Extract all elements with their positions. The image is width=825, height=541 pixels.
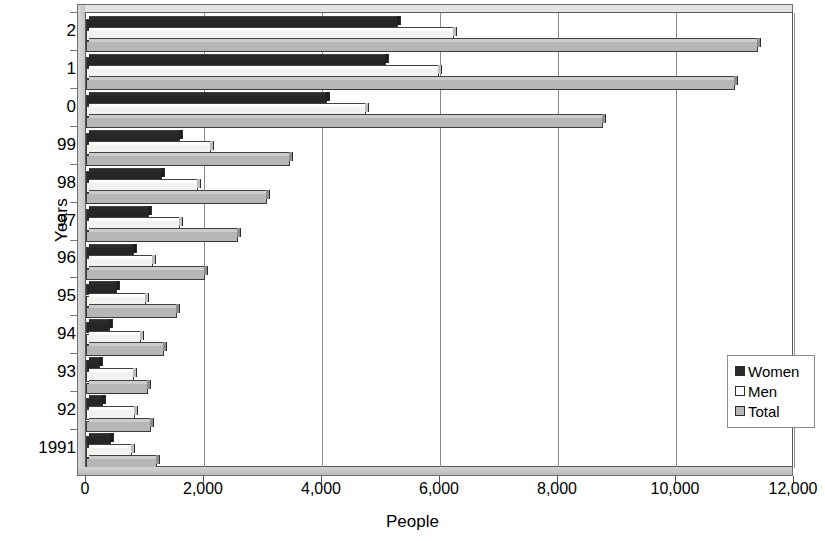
bar-total-0 — [86, 117, 603, 128]
bar-top-face — [89, 455, 158, 459]
bar-top-face — [89, 130, 181, 134]
bar-chart: Years People 19919293949596979899012 02,… — [0, 0, 825, 541]
bar-top-face — [89, 228, 239, 232]
bar-side-face — [116, 281, 120, 290]
bar-side-face — [385, 54, 389, 63]
bar-side-face — [176, 304, 180, 313]
bar-side-face — [133, 368, 137, 377]
y-tick-mark — [70, 164, 77, 165]
y-tick-mark — [70, 50, 77, 51]
y-tick-mark — [70, 12, 77, 13]
bar-total-97 — [86, 231, 238, 242]
x-tick-label: 6,000 — [419, 480, 459, 498]
chart-legend: Women Men Total — [727, 355, 815, 428]
bar-top-face — [89, 217, 181, 221]
bar-top-face — [89, 266, 206, 270]
bar-side-face — [150, 418, 154, 427]
plot-floor — [77, 467, 793, 476]
bar-total-98 — [86, 193, 267, 204]
bar-total-92 — [86, 421, 151, 432]
bar-total-2 — [86, 41, 758, 52]
bar-top-face — [89, 38, 759, 42]
x-axis-title: People — [0, 512, 825, 532]
legend-item-women: Women — [735, 361, 808, 381]
y-tick-label: 1991 — [16, 439, 76, 456]
y-tick-mark — [70, 202, 77, 203]
bar-top-face — [89, 65, 440, 69]
legend-label-men: Men — [748, 383, 777, 400]
legend-swatch-total-icon — [735, 406, 745, 416]
y-tick-mark — [70, 240, 77, 241]
x-tick-label: 8,000 — [537, 480, 577, 498]
bar-side-face — [179, 217, 183, 226]
legend-item-total: Total — [735, 401, 808, 421]
bar-top-face — [89, 342, 165, 346]
bar-total-95 — [86, 307, 177, 318]
bar-side-face — [397, 16, 401, 25]
bar-side-face — [133, 244, 137, 253]
x-tick-label: 10,000 — [651, 480, 700, 498]
bar-top-face — [89, 168, 163, 172]
y-tick-label: 93 — [16, 363, 76, 380]
bar-top-face — [89, 206, 150, 210]
y-tick-label: 99 — [16, 136, 76, 153]
bar-side-face — [163, 342, 167, 351]
bar-total-99 — [86, 155, 290, 166]
y-tick-label: 96 — [16, 249, 76, 266]
bar-side-face — [152, 255, 156, 264]
bar-side-face — [326, 92, 330, 101]
bar-top-face — [89, 433, 112, 437]
x-tick-label: 2,000 — [183, 480, 223, 498]
y-axis-tick-labels: 19919293949596979899012 — [0, 0, 76, 541]
bar-side-face — [147, 380, 151, 389]
bar-top-face — [89, 54, 387, 58]
bar-top-face — [89, 190, 268, 194]
bar-side-face — [148, 206, 152, 215]
bar-side-face — [237, 228, 241, 237]
bar-top-face — [89, 103, 367, 107]
bar-side-face — [757, 38, 761, 47]
bar-side-face — [99, 357, 103, 366]
y-tick-label: 95 — [16, 287, 76, 304]
bar-top-face — [89, 406, 136, 410]
bar-total-93 — [86, 383, 148, 394]
bar-side-face — [365, 103, 369, 112]
y-tick-mark — [70, 391, 77, 392]
bar-side-face — [110, 433, 114, 442]
bar-side-face — [134, 406, 138, 415]
y-tick-label: 98 — [16, 174, 76, 191]
bar-top-face — [89, 380, 149, 384]
y-tick-mark — [70, 429, 77, 430]
bar-side-face — [197, 179, 201, 188]
bar-side-face — [109, 319, 113, 328]
y-tick-label: 1 — [16, 60, 76, 77]
y-tick-label: 92 — [16, 401, 76, 418]
bar-top-face — [89, 304, 178, 308]
y-tick-label: 94 — [16, 325, 76, 342]
y-tick-label: 2 — [16, 22, 76, 39]
y-tick-mark — [70, 315, 77, 316]
bar-side-face — [140, 331, 144, 340]
bar-side-face — [210, 141, 214, 150]
y-tick-mark — [70, 88, 77, 89]
bar-total-94 — [86, 345, 164, 356]
bar-top-face — [89, 16, 399, 20]
bar-top-face — [89, 152, 291, 156]
bar-side-face — [289, 152, 293, 161]
plot-area — [85, 12, 793, 467]
bar-side-face — [131, 444, 135, 453]
bar-top-face — [89, 444, 133, 448]
bar-top-face — [89, 281, 118, 285]
bar-side-face — [602, 114, 606, 123]
legend-label-total: Total — [748, 403, 780, 420]
bar-side-face — [156, 455, 160, 464]
bar-side-face — [161, 168, 165, 177]
legend-swatch-women-icon — [735, 366, 745, 376]
bar-top-face — [89, 76, 736, 80]
bar-top-face — [89, 27, 455, 31]
legend-item-men: Men — [735, 381, 808, 401]
bar-total-1 — [86, 79, 735, 90]
bar-side-face — [145, 293, 149, 302]
bar-top-face — [89, 92, 328, 96]
bar-top-face — [89, 244, 135, 248]
